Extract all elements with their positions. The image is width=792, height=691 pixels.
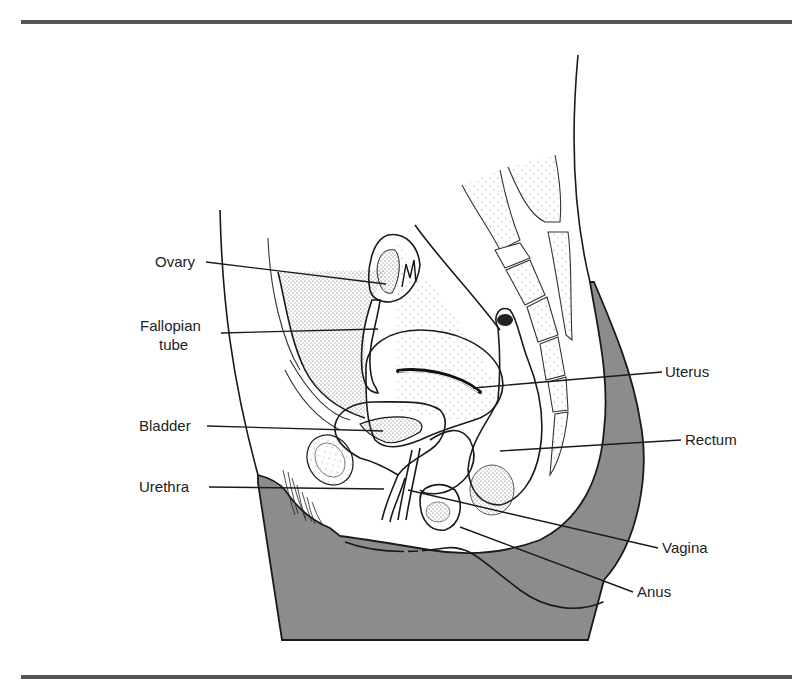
label-ovary: Ovary: [155, 253, 196, 270]
label-fallopian-tube-line1: Fallopian: [140, 317, 201, 334]
vagina-urethra-shape: [382, 431, 474, 531]
label-anus: Anus: [637, 583, 671, 600]
label-vagina: Vagina: [662, 539, 708, 556]
label-rectum: Rectum: [685, 431, 737, 448]
label-bladder: Bladder: [139, 417, 191, 434]
sacrum-vertebrae: [462, 155, 572, 475]
anatomy-diagram: Ovary Fallopian tube Bladder Urethra Ute…: [0, 0, 792, 691]
label-urethra: Urethra: [139, 478, 190, 495]
label-uterus: Uterus: [665, 363, 709, 380]
bladder-shape: [298, 402, 445, 494]
label-fallopian-tube-line2: tube: [159, 336, 188, 353]
